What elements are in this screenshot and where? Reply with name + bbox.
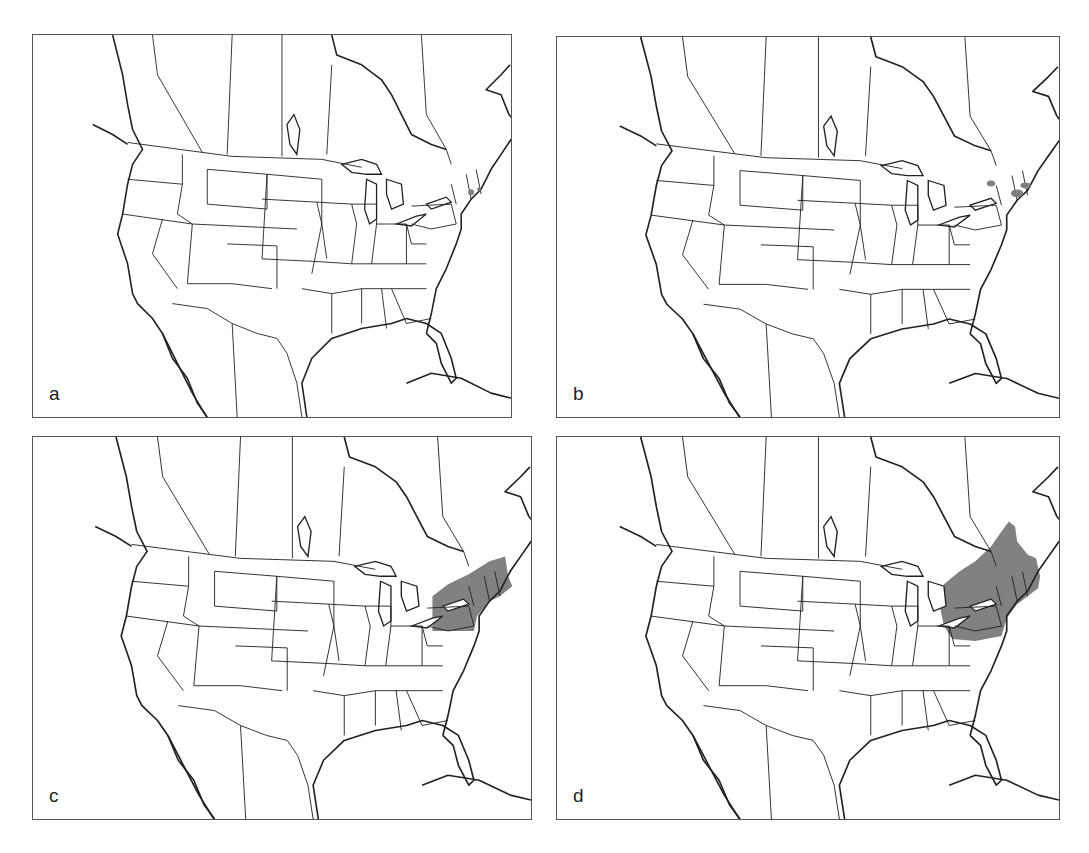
- map-panel-a: a: [32, 34, 512, 418]
- base-map: [557, 37, 1059, 417]
- range-highlight: [1020, 182, 1030, 188]
- map-panel-c: c: [32, 436, 532, 820]
- panel-label: a: [49, 383, 60, 405]
- panel-label: d: [573, 785, 584, 807]
- range-highlight: [468, 189, 474, 195]
- panel-label: c: [49, 785, 59, 807]
- map-panel-b: b: [556, 36, 1060, 418]
- panel-label: b: [573, 383, 584, 405]
- range-highlight: [987, 180, 995, 186]
- range-highlight: [1011, 189, 1024, 197]
- range-highlight: [477, 187, 481, 191]
- base-map: [33, 35, 511, 417]
- base-map: [557, 437, 1059, 819]
- base-map: [33, 437, 531, 819]
- map-panel-d: d: [556, 436, 1060, 820]
